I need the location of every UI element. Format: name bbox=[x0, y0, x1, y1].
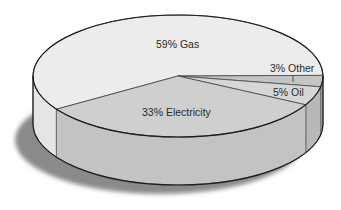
label-electricity: 33% Electricity bbox=[142, 106, 211, 118]
pie-chart bbox=[0, 0, 341, 210]
label-other: 3% Other bbox=[270, 62, 314, 74]
pie-top-slices bbox=[33, 15, 323, 137]
label-gas: 59% Gas bbox=[156, 38, 199, 50]
label-oil: 5% Oil bbox=[273, 86, 304, 98]
